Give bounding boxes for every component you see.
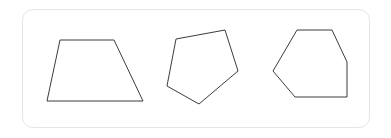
hexagon-shape [273,30,347,97]
trapezoid-shape [47,40,143,101]
screenshot-root [0,0,391,138]
shapes-canvas [0,0,391,138]
pentagon-shape [167,30,238,104]
